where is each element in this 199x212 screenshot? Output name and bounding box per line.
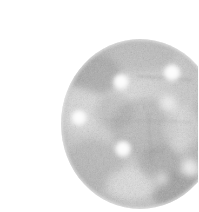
hole-upper-right <box>164 65 181 82</box>
perforated-disc-figure: perforated circular disc <box>40 16 198 212</box>
hole-bottom-right <box>155 172 169 186</box>
hole-right-upper <box>159 95 177 113</box>
hole-center-lower <box>115 141 131 157</box>
hole-upper-left-center <box>113 74 129 90</box>
hole-left <box>71 110 87 126</box>
hole-right-lower <box>182 160 199 177</box>
disc-vector-scene: perforated circular disc <box>40 16 198 212</box>
scanned-image-canvas: perforated circular disc <box>0 0 198 212</box>
